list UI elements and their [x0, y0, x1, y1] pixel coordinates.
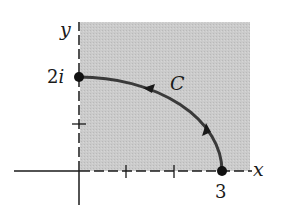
label-3: 3: [215, 181, 226, 202]
imaginary-unit: i: [58, 66, 64, 87]
point-3: [217, 166, 227, 176]
label-2i-text: 2: [47, 66, 58, 87]
x-axis-label: x: [253, 158, 264, 180]
point-2i: [74, 72, 84, 82]
label-2i: 2i: [47, 66, 64, 87]
contour-diagram: y x 2i 3 C: [0, 0, 289, 207]
y-axis-label: y: [59, 18, 71, 40]
curve-label-c: C: [170, 72, 185, 94]
